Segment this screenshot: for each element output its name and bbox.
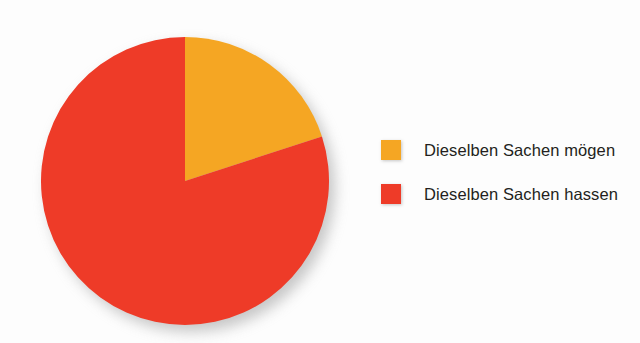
pie-chart-plot-area — [41, 37, 329, 325]
pie-chart-figure: Dieselben Sachen mögen Dieselben Sachen … — [0, 0, 640, 343]
legend-swatch-hassen — [381, 184, 401, 204]
legend-item-hassen[interactable]: Dieselben Sachen hassen — [381, 184, 631, 204]
chart-legend: Dieselben Sachen mögen Dieselben Sachen … — [381, 140, 631, 204]
pie-chart-svg — [41, 37, 329, 325]
legend-label-hassen: Dieselben Sachen hassen — [424, 184, 618, 204]
legend-label-moegen: Dieselben Sachen mögen — [424, 140, 615, 160]
pie-slice-group — [41, 37, 329, 325]
legend-swatch-moegen — [381, 140, 401, 160]
legend-item-moegen[interactable]: Dieselben Sachen mögen — [381, 140, 631, 160]
